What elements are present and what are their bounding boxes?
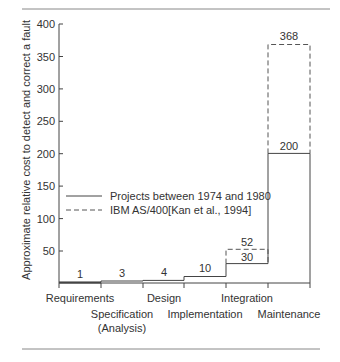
svg-text:368: 368 (280, 30, 298, 42)
legend: Projects between 1974 and 1980 IBM AS/40… (66, 190, 271, 216)
series-ibm-maintenance (268, 45, 310, 154)
svg-text:100: 100 (37, 213, 55, 225)
y-tick-labels: 400 350 300 250 200 150 100 50 (37, 18, 55, 257)
legend-solid-label: Projects between 1974 and 1980 (110, 190, 271, 202)
svg-text:Implementation: Implementation (167, 308, 242, 320)
x-ticks (59, 283, 310, 288)
svg-text:Maintenance: Maintenance (258, 308, 321, 320)
svg-text:10: 10 (199, 262, 211, 274)
series-projects-1974-1980 (59, 153, 310, 283)
svg-text:300: 300 (37, 83, 55, 95)
category-labels: Requirements Design Integration Specific… (46, 292, 321, 334)
svg-text:250: 250 (37, 115, 55, 127)
svg-text:1: 1 (77, 268, 83, 280)
legend-dashed-label: IBM AS/400[Kan et al., 1994] (110, 204, 251, 216)
svg-text:4: 4 (161, 266, 167, 278)
cost-chart: Approximate relative cost to detect and … (0, 0, 340, 362)
svg-text:200: 200 (37, 148, 55, 160)
svg-text:Integration: Integration (221, 292, 273, 304)
svg-text:52: 52 (241, 236, 253, 248)
svg-text:400: 400 (37, 18, 55, 30)
svg-text:200: 200 (280, 140, 298, 152)
svg-text:(Analysis): (Analysis) (98, 322, 146, 334)
y-ticks (59, 24, 63, 251)
svg-text:30: 30 (241, 251, 253, 263)
svg-text:3: 3 (119, 267, 125, 279)
svg-text:50: 50 (43, 245, 55, 257)
svg-text:Design: Design (147, 292, 181, 304)
svg-text:150: 150 (37, 180, 55, 192)
svg-text:Specification: Specification (91, 308, 153, 320)
svg-text:350: 350 (37, 51, 55, 63)
y-axis-label: Approximate relative cost to detect and … (20, 20, 32, 280)
value-labels: 1 3 4 10 30 52 200 368 (77, 30, 298, 280)
svg-text:Requirements: Requirements (46, 292, 115, 304)
